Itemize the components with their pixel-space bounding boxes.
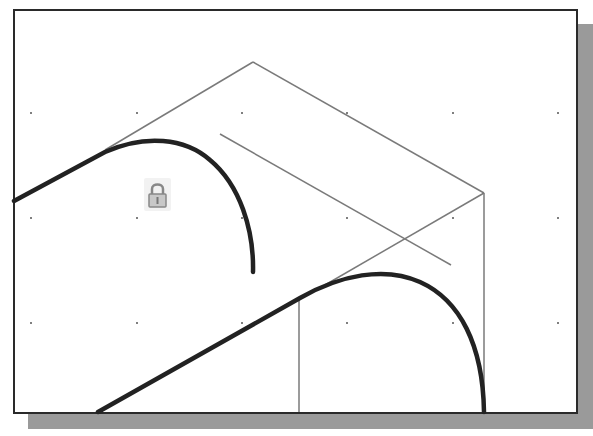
grid-dot: [452, 322, 454, 324]
grid-dot: [136, 322, 138, 324]
grid-dot: [30, 322, 32, 324]
grid-dot: [346, 112, 348, 114]
construction-line[interactable]: [105, 62, 253, 150]
grid-dots: [30, 112, 559, 324]
grid-dot: [557, 322, 559, 324]
lower-tangent-arc[interactable]: [98, 274, 484, 412]
grid-dot: [557, 112, 559, 114]
grid-dot: [30, 112, 32, 114]
grid-dot: [136, 112, 138, 114]
grid-dot: [136, 217, 138, 219]
grid-dot: [452, 217, 454, 219]
lock-icon[interactable]: [144, 178, 171, 211]
construction-line[interactable]: [220, 134, 451, 265]
construction-line[interactable]: [253, 62, 484, 193]
object-curves[interactable]: [14, 141, 484, 412]
sketch-canvas[interactable]: [0, 0, 593, 436]
grid-dot: [30, 217, 32, 219]
grid-dot: [241, 217, 243, 219]
grid-dot: [452, 112, 454, 114]
construction-lines: [105, 62, 484, 412]
grid-dot: [346, 217, 348, 219]
upper-tangent-arc[interactable]: [14, 141, 253, 272]
grid-dot: [557, 217, 559, 219]
grid-dot: [241, 322, 243, 324]
grid-dot: [346, 322, 348, 324]
grid-dot: [241, 112, 243, 114]
